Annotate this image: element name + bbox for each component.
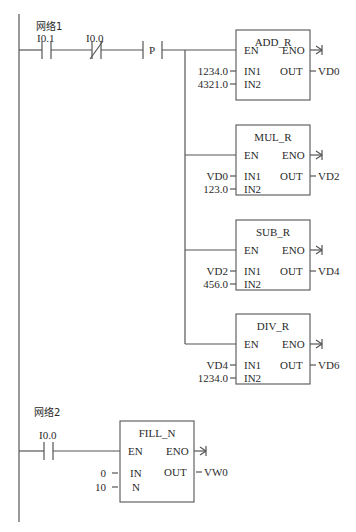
svg-text:I0.1: I0.1 (37, 32, 54, 44)
en-pin: EN (244, 44, 259, 56)
in1-value: VD0 (207, 170, 229, 182)
out-pin: OUT (164, 466, 187, 478)
contact-i0-0-normally-closed[interactable]: I0.0 (86, 32, 104, 59)
n-pin: N (132, 481, 140, 493)
in1-pin: IN1 (244, 65, 261, 77)
block-title: SUB_R (256, 226, 291, 238)
eno-pin: ENO (282, 44, 305, 56)
in2-pin: IN2 (244, 78, 261, 90)
in-pin: IN (130, 467, 142, 479)
out-value: VW0 (204, 466, 228, 478)
contact-network2-i0-0-normally-open[interactable]: I0.0 (39, 429, 57, 460)
in1-pin: IN1 (244, 359, 261, 371)
in2-pin: IN2 (244, 372, 261, 384)
in2-value: 1234.0 (198, 372, 229, 384)
out-pin: OUT (280, 170, 303, 182)
out-pin: OUT (280, 65, 303, 77)
en-pin: EN (128, 445, 143, 457)
out-pin: OUT (280, 359, 303, 371)
n-value: 10 (95, 481, 107, 493)
network-2-label: 网络2 (34, 406, 60, 418)
eno-pin: ENO (166, 445, 189, 457)
in2-pin: IN2 (244, 183, 261, 195)
block-add-r[interactable]: ADD_R EN ENO IN1 IN2 OUT 1234.0 4321.0 V… (198, 30, 340, 100)
out-value: VD0 (318, 65, 340, 77)
en-pin: EN (244, 338, 259, 350)
block-div-r[interactable]: DIV_R EN ENO IN1 IN2 OUT VD4 1234.0 VD6 (198, 314, 340, 384)
svg-text:P: P (149, 44, 155, 56)
in-value: 0 (101, 467, 107, 479)
block-title: MUL_R (254, 131, 292, 143)
in2-value: 123.0 (203, 183, 228, 195)
in2-pin: IN2 (244, 278, 261, 290)
positive-transition-contact[interactable]: P (143, 41, 162, 59)
block-mul-r[interactable]: MUL_R EN ENO IN1 IN2 OUT VD0 123.0 VD2 (203, 125, 339, 195)
out-value: VD6 (318, 359, 340, 371)
en-pin: EN (244, 244, 259, 256)
in2-value: 456.0 (203, 278, 228, 290)
in1-value: VD2 (207, 265, 228, 277)
in1-pin: IN1 (244, 170, 261, 182)
en-pin: EN (244, 149, 259, 161)
in1-value: VD4 (207, 359, 229, 371)
contact-i0-1-normally-open[interactable]: I0.1 (37, 32, 54, 59)
eno-pin: ENO (282, 244, 305, 256)
out-value: VD2 (318, 170, 339, 182)
block-fill-n[interactable]: FILL_N EN ENO IN N OUT 0 10 VW0 (95, 421, 228, 502)
in1-value: 1234.0 (198, 65, 229, 77)
in2-value: 4321.0 (198, 78, 229, 90)
eno-pin: ENO (282, 149, 305, 161)
ladder-diagram: 网络1 I0.1 I0.0 P ADD_R EN ENO IN1 IN2 O (0, 0, 356, 532)
out-pin: OUT (280, 265, 303, 277)
network-1-label: 网络1 (36, 20, 62, 32)
svg-text:I0.0: I0.0 (39, 429, 57, 441)
in1-pin: IN1 (244, 265, 261, 277)
block-sub-r[interactable]: SUB_R EN ENO IN1 IN2 OUT VD2 456.0 VD4 (203, 220, 340, 290)
block-title: FILL_N (139, 427, 176, 439)
eno-pin: ENO (282, 338, 305, 350)
block-title: DIV_R (257, 320, 290, 332)
out-value: VD4 (318, 265, 340, 277)
